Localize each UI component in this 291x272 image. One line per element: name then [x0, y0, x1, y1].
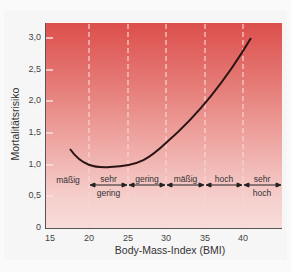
x-tick-label: 35	[195, 233, 215, 243]
y-tick-label: 3,0	[17, 32, 41, 42]
x-tick-label: 20	[79, 233, 99, 243]
category-label-maessig-1: mäßig	[48, 175, 88, 186]
x-tick-label: 40	[233, 233, 253, 243]
category-label-maessig-2: mäßig	[166, 174, 205, 185]
y-tick-marks	[46, 38, 53, 196]
x-axis-label: Body-Mass-Index (BMI)	[90, 244, 250, 256]
x-tick-label: 15	[40, 233, 60, 243]
category-label-sehr-hoch-top: sehr	[243, 174, 281, 185]
x-tick-label: 25	[118, 233, 138, 243]
mortality-curve	[70, 38, 251, 167]
chart-overlay	[0, 0, 291, 272]
category-label-hoch: hoch	[205, 174, 243, 185]
category-label-sehr-gering-bottom: gering	[89, 188, 128, 199]
category-label-sehr-hoch-bottom: hoch	[243, 188, 281, 199]
y-axis-label: Mortalitätsrisiko	[9, 79, 21, 169]
x-tick-label: 30	[156, 233, 176, 243]
category-label-sehr-gering-top: sehr	[89, 174, 128, 185]
y-tick-label: 0	[17, 222, 41, 232]
y-tick-label: 2,5	[17, 64, 41, 74]
category-label-gering: gering	[128, 174, 166, 185]
y-tick-label: 0,5	[17, 190, 41, 200]
